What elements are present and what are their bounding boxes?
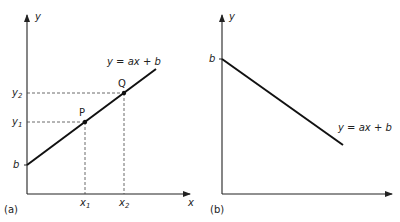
point-q	[122, 91, 126, 95]
point-p	[83, 120, 87, 124]
panel-a: y x P Q y = ax + b b y1 y2 x1 x2 (a)	[4, 11, 194, 215]
y-axis-label: y	[228, 11, 236, 22]
y-axis-label: y	[34, 11, 42, 22]
x1-label: x1	[79, 197, 90, 210]
intercept-label: b	[209, 53, 215, 64]
point-p-label: P	[79, 107, 85, 118]
caption-b: (b)	[210, 204, 224, 215]
figure: y x P Q y = ax + b b y1 y2 x1 x2 (a) y b…	[0, 0, 400, 222]
equation-label: y = ax + b	[106, 56, 161, 67]
caption-a: (a)	[4, 204, 18, 215]
point-q-label: Q	[118, 78, 126, 89]
intercept-label: b	[13, 159, 19, 170]
y2-label: y2	[11, 87, 23, 100]
x2-label: x2	[118, 197, 130, 210]
line-b	[222, 59, 343, 145]
y1-label: y1	[11, 116, 22, 129]
panel-b: y b y = ax + b (b)	[209, 11, 392, 215]
x-axis-label: x	[187, 197, 194, 208]
line-a	[27, 69, 156, 165]
equation-label: y = ax + b	[337, 122, 392, 133]
